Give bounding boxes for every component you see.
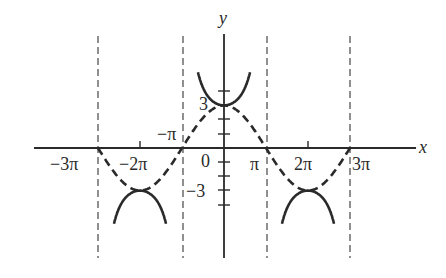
tick-label-3: 3 [199,94,208,114]
tick-label-neg-3pi: −3π [50,154,78,174]
secant-branch-left [114,191,166,224]
graph-sec-cos: y x −3π −2π −π 0 π 2π 3π 3 −3 [0,0,446,278]
tick-label-2pi: 2π [294,154,312,174]
tick-label-pi: π [250,154,259,174]
label-neg-pi: −π [157,124,176,144]
origin-label: 0 [201,151,210,171]
y-axis-label: y [217,8,227,28]
tick-label-3pi: 3π [352,154,370,174]
secant-branch-right [282,191,334,224]
x-axis-label: x [418,137,427,157]
tick-label-neg-3: −3 [186,181,205,201]
tick-label-neg-2pi: −2π [119,154,147,174]
axes [34,34,416,258]
